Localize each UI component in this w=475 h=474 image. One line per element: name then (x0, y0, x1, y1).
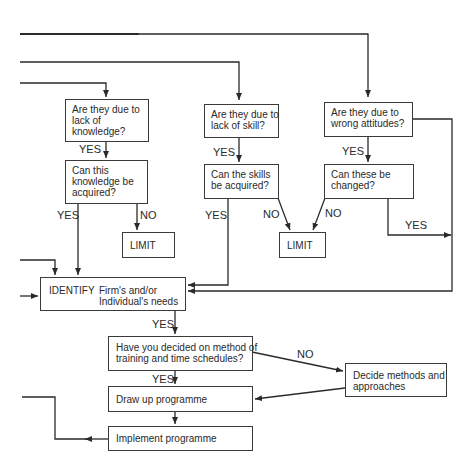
node-text-line: Firm's and/or (99, 285, 157, 296)
edge-label-no: NO (263, 208, 280, 220)
node-text-line: acquired? (72, 187, 141, 198)
node-draw-up-programme: Draw up programme (108, 386, 253, 412)
node-text-line: Can these be (331, 169, 407, 180)
edge-label-yes: YES (57, 209, 79, 221)
node-text-line: be acquired? (211, 180, 272, 191)
node-text: Implement programme (116, 433, 245, 444)
node-text-line: wrong attitudes? (331, 118, 406, 129)
node-text: LIMIT (287, 240, 318, 251)
node-text: LIMIT (130, 240, 167, 251)
node-text-line: Individual's needs (99, 296, 178, 307)
node-method-decided: Have you decided on method of training a… (108, 336, 253, 371)
node-text-line: knowledge? (72, 126, 142, 137)
node-limit: LIMIT (279, 232, 326, 258)
node-text-line: Can the skills (211, 169, 272, 180)
node-lack-of-knowledge: Are they due to lack of knowledge? (65, 99, 149, 142)
node-text-line: lack of (72, 115, 142, 126)
node-text-line: Are they due to (211, 109, 272, 120)
node-text-line: changed? (331, 180, 407, 191)
node-text-line: training and time schedules? (116, 353, 245, 364)
edge-label-yes: YES (79, 143, 101, 155)
node-text-line: lack of skill? (211, 120, 272, 131)
edge-label-no: NO (140, 209, 157, 221)
node-text: Draw up programme (116, 394, 245, 405)
node-skills-acquired: Can the skills be acquired? (204, 164, 279, 199)
node-text-line: Decide methods and (353, 370, 439, 381)
edge-label-yes: YES (152, 373, 174, 385)
node-decide-methods: Decide methods and approaches (345, 363, 447, 397)
edge-label-yes: YES (205, 209, 227, 221)
node-attitudes-changed: Can these be changed? (324, 164, 414, 199)
edge-label-yes: YES (342, 145, 364, 157)
node-implement-programme: Implement programme (108, 426, 253, 451)
edge-label-yes: YES (152, 318, 174, 330)
identify-keyword: IDENTIFY (49, 285, 95, 296)
edge-label-no: NO (325, 207, 342, 219)
node-limit: LIMIT (122, 232, 175, 258)
node-lack-of-skill: Are they due to lack of skill? (204, 104, 279, 138)
edge-label-no: NO (297, 348, 314, 360)
node-text-line: Have you decided on method of (116, 342, 245, 353)
node-wrong-attitudes: Are they due to wrong attitudes? (324, 102, 413, 137)
node-identify-needs: IDENTIFY Firm's and/or Individual's need… (40, 277, 186, 311)
node-text-line: knowledge be (72, 176, 141, 187)
node-text-line: approaches (353, 381, 439, 392)
node-text-line: Can this (72, 165, 141, 176)
edge-label-yes: YES (213, 146, 235, 158)
node-text-line: Are they due to (331, 107, 406, 118)
edge-label-yes: YES (405, 219, 427, 231)
node-knowledge-acquired: Can this knowledge be acquired? (65, 160, 148, 204)
training-needs-flowchart: Are they due to lack of knowledge? Are t… (0, 0, 475, 474)
node-text-line: Are they due to (72, 104, 142, 115)
